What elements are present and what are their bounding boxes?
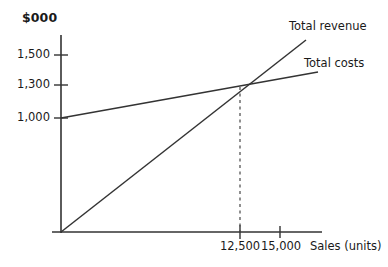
x-axis-title: Sales (units) [310,241,382,253]
break-even-chart: $000 1,500 1,300 1,000 12,500 15,000 Sal… [0,0,388,267]
unit-title: $000 [22,12,57,25]
series-label-total-costs: Total costs [304,58,364,70]
x-tick-label-15000: 15,000 [252,241,310,253]
total-costs-line [61,72,318,118]
chart-plot-area [0,0,388,267]
y-tick-label-1500: 1,500 [0,49,50,61]
series-label-total-revenue: Total revenue [289,21,367,33]
y-tick-label-1300: 1,300 [0,79,50,91]
total-revenue-line [61,40,306,232]
y-tick-label-1000: 1,000 [0,112,50,124]
